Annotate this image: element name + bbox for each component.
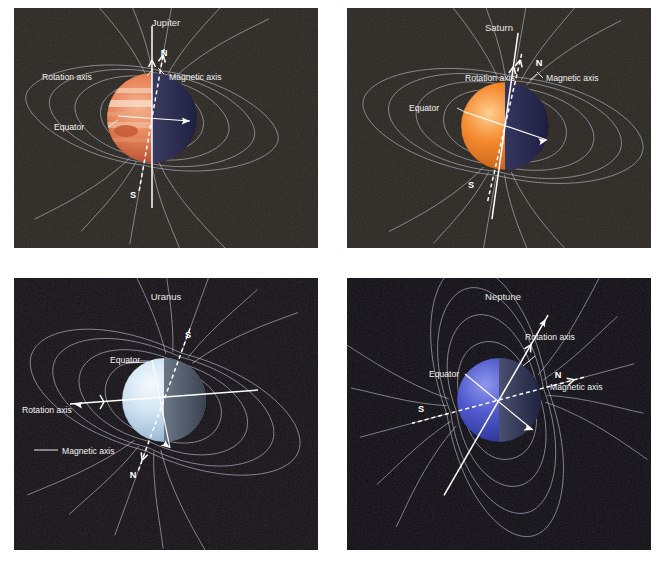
label-north-saturn: N — [536, 58, 543, 68]
planetary-magnetic-fields-figure: Jupiter Rotation axis Magnetic axis Equa… — [0, 0, 665, 564]
label-magnetic-axis-saturn: Magnetic axis — [546, 73, 599, 83]
label-equator-saturn: Equator — [409, 103, 439, 113]
panel-uranus: Uranus Rotation axis Magnetic axis Equat… — [14, 278, 318, 550]
label-rotation-axis-neptune: Rotation axis — [525, 332, 575, 342]
label-magnetic-axis-uranus: Magnetic axis — [62, 446, 115, 456]
panel-title-neptune: Neptune — [485, 291, 521, 302]
label-south-uranus: S — [185, 330, 191, 340]
panel-title-uranus: Uranus — [151, 291, 182, 302]
label-south-jupiter: S — [130, 190, 136, 200]
label-north-neptune: N — [555, 370, 562, 380]
panel-title-saturn: Saturn — [485, 22, 513, 33]
label-magnetic-axis-jupiter: Magnetic axis — [169, 72, 222, 82]
label-magnetic-axis-neptune: Magnetic axis — [550, 382, 603, 392]
label-south-saturn: S — [468, 180, 474, 190]
label-north-uranus: N — [130, 470, 137, 480]
label-south-neptune: S — [418, 404, 424, 414]
label-equator-uranus: Equator — [110, 355, 140, 365]
label-north-jupiter: N — [161, 48, 168, 58]
label-rotation-axis-jupiter: Rotation axis — [42, 72, 92, 82]
panel-saturn: Saturn Rotation axis Magnetic axis Equat… — [347, 8, 651, 248]
panel-neptune: Neptune Rotation axis Magnetic axis Equa… — [347, 278, 651, 550]
panel-jupiter: Jupiter Rotation axis Magnetic axis Equa… — [14, 8, 318, 248]
panel-title-jupiter: Jupiter — [152, 17, 181, 28]
label-rotation-axis-uranus: Rotation axis — [22, 405, 72, 415]
label-equator-jupiter: Equator — [54, 122, 84, 132]
label-rotation-axis-saturn: Rotation axis — [465, 73, 515, 83]
great-red-spot — [114, 125, 138, 137]
label-equator-neptune: Equator — [429, 369, 459, 379]
